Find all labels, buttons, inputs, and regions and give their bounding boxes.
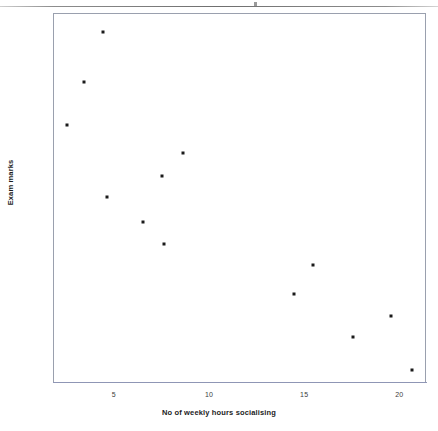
plot-area-frame (53, 13, 426, 383)
x-axis-tick-label: 20 (379, 391, 419, 398)
x-axis-tick-labels: 5101520 (0, 391, 438, 403)
data-point (142, 221, 145, 224)
data-point (311, 264, 314, 267)
data-point (351, 336, 354, 339)
x-axis-tick-label: 15 (284, 391, 324, 398)
data-point (106, 196, 109, 199)
data-point (83, 80, 86, 83)
data-point (292, 293, 295, 296)
y-axis-title: Exam marks (6, 143, 15, 223)
data-point (182, 152, 185, 155)
data-point (163, 242, 166, 245)
data-point (389, 314, 392, 317)
x-axis-title: No of weekly hours socialising (0, 408, 438, 417)
x-axis-tick-label: 5 (94, 391, 134, 398)
data-point (161, 174, 164, 177)
data-point (102, 30, 105, 33)
data-point (410, 368, 413, 371)
x-axis-tick-label: 10 (189, 391, 229, 398)
scatter-plot-figure: 4050607080 5101520 No of weekly hours so… (0, 0, 438, 431)
data-point (66, 124, 69, 127)
